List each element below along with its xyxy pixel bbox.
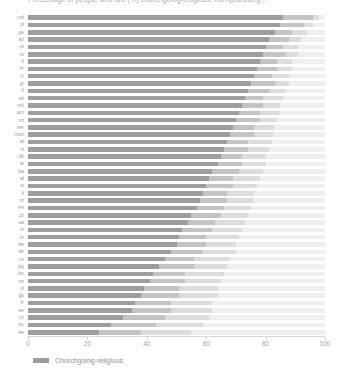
stacked-bar [28, 279, 325, 284]
stacked-bar [28, 89, 325, 94]
bar-segment [156, 323, 204, 328]
stacked-bar [28, 96, 325, 101]
bar-segment [242, 228, 325, 233]
plot-area [28, 14, 325, 336]
bar-segment [179, 293, 218, 298]
bar-segment [301, 37, 325, 42]
bar-segment [28, 301, 135, 306]
bar-segment [257, 184, 325, 189]
bar-segment [286, 89, 325, 94]
bar-segment [266, 45, 284, 50]
y-axis-tick-label: ro [19, 52, 24, 57]
y-axis-tick-label: fr [21, 300, 24, 305]
bar-segment [28, 30, 275, 35]
bar-row [28, 169, 325, 174]
x-axis-ticks: 020406080100 [28, 337, 325, 349]
bar-segment [277, 67, 292, 72]
stacked-bar [28, 228, 325, 233]
bar-segment [245, 220, 325, 225]
bar-row [28, 147, 325, 152]
y-axis-tick-label: mk [17, 103, 24, 108]
y-axis-tick-label: hu [18, 271, 24, 276]
y-axis-tick-label: it [21, 88, 24, 93]
bar-segment [28, 132, 230, 137]
bar-row [28, 162, 325, 167]
y-axis-tick-label: nr [19, 198, 24, 203]
y-axis-tick-label: de [18, 249, 24, 254]
bar-segment [313, 23, 325, 28]
bar-row [28, 323, 325, 328]
bar-row [28, 250, 325, 255]
bar-segment [191, 330, 325, 335]
stacked-bar [28, 315, 325, 320]
bar-segment [263, 96, 284, 101]
bar-segment [215, 220, 245, 225]
bar-segment [28, 154, 221, 159]
bar-segment [283, 96, 325, 101]
y-axis-tick-label: pl [20, 22, 24, 27]
bar-segment [153, 272, 186, 277]
bar-segment [227, 198, 254, 203]
bar-row [28, 52, 325, 57]
x-axis-tick-label: 0 [26, 340, 30, 347]
bar-segment [206, 235, 239, 240]
x-axis-tick-label: 60 [203, 340, 210, 347]
bar-segment [289, 37, 301, 42]
stacked-bar [28, 206, 325, 211]
bar-segment [28, 169, 212, 174]
bar-segment [28, 330, 99, 335]
legend-swatch-churchgoing-religious [33, 358, 49, 363]
bar-segment [28, 89, 248, 94]
bar-segment [266, 154, 325, 159]
bar-segment [274, 132, 324, 137]
bar-segment [248, 140, 272, 145]
stacked-bar [28, 176, 325, 181]
bar-segment [307, 30, 325, 35]
stacked-bar [28, 169, 325, 174]
bar-segment [248, 147, 269, 152]
bar-segment [28, 250, 171, 255]
y-axis-tick-label: am [17, 110, 24, 115]
bar-segment [224, 272, 325, 277]
stacked-bar [28, 111, 325, 116]
bar-segment [251, 81, 275, 86]
bar-segment [28, 272, 153, 277]
bar-segment [298, 45, 325, 50]
bar-row [28, 308, 325, 313]
bar-row [28, 81, 325, 86]
bar-segment [28, 140, 227, 145]
y-axis-tick-label: lu [20, 235, 24, 240]
bar-segment [144, 286, 180, 291]
bar-segment [171, 301, 213, 306]
x-axis-tick-label: 40 [143, 340, 150, 347]
bar-row [28, 59, 325, 64]
bar-segment [286, 52, 298, 57]
stacked-bar [28, 286, 325, 291]
bar-row [28, 111, 325, 116]
y-axis-tick-label: az [19, 37, 24, 42]
bar-segment [191, 213, 221, 218]
y-axis-tick-label: at [20, 139, 24, 144]
chart-title: Percentage of people who are (%) churchg… [28, 0, 333, 4]
bar-segment [28, 206, 197, 211]
bar-segment [289, 81, 325, 86]
bar-row [28, 279, 325, 284]
bar-row [28, 132, 325, 137]
bar-segment [269, 147, 325, 152]
bar-segment [242, 103, 263, 108]
bar-row [28, 45, 325, 50]
bar-segment [292, 59, 325, 64]
bar-segment [239, 235, 325, 240]
bar-row [28, 118, 325, 123]
stacked-bar [28, 23, 325, 28]
x-axis-tick-label: 80 [262, 340, 269, 347]
bar-row [28, 235, 325, 240]
bar-segment [28, 111, 239, 116]
bar-segment [141, 330, 191, 335]
y-axis-tick-label: ser [17, 125, 24, 130]
bar-segment [165, 257, 195, 262]
bar-segment [218, 286, 325, 291]
bar-row [28, 301, 325, 306]
bar-segment [212, 228, 242, 233]
bar-segment [242, 154, 266, 159]
